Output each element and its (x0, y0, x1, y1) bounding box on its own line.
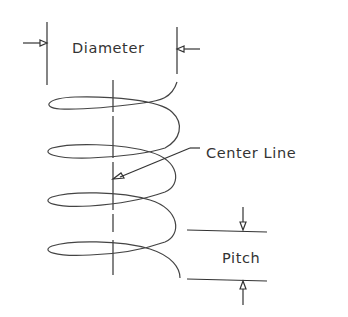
helix-coil (48, 82, 180, 278)
arrow-right-icon (40, 40, 47, 46)
pitch-label: Pitch (222, 250, 260, 266)
spring-diagram: Diameter Center Line Pitch (0, 0, 348, 317)
arrow-left-icon (177, 46, 184, 52)
diameter-label: Diameter (72, 40, 145, 56)
center-line-label: Center Line (206, 145, 296, 161)
pitch-extension-top (187, 230, 267, 232)
pitch-extension-bottom (187, 279, 267, 281)
arrow-down-icon (240, 222, 246, 230)
pitch-dimension: Pitch (187, 207, 267, 305)
arrow-up-icon (240, 281, 246, 289)
diameter-dimension: Diameter (23, 22, 200, 85)
arrow-icon (113, 173, 124, 179)
